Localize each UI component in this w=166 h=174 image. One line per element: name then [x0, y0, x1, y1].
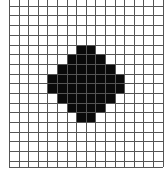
filled-row: [47, 83, 124, 93]
filled-row: [67, 54, 105, 64]
filled-row: [47, 74, 124, 84]
pixel-grid-diagram: [0, 0, 166, 174]
filled-row: [76, 112, 95, 122]
filled-row: [67, 103, 105, 113]
